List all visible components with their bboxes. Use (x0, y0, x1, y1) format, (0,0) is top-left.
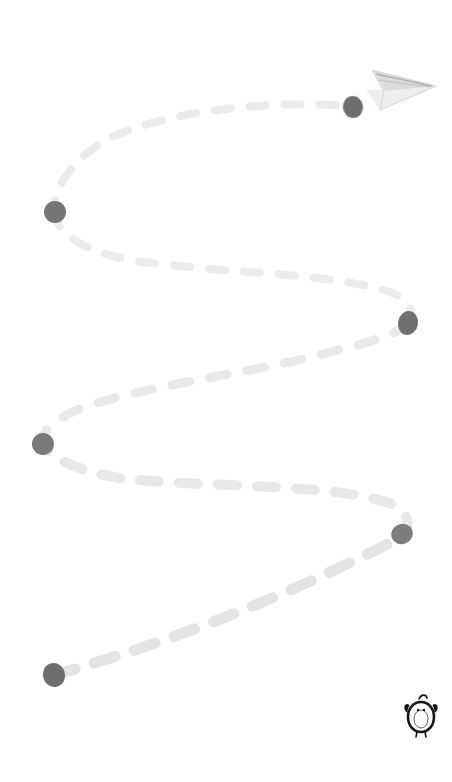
penguin-belly-icon (414, 710, 428, 728)
illustration-canvas: Dashed flight path with paper airplane (0, 0, 452, 782)
flight-path-scene (0, 0, 452, 782)
background (0, 0, 452, 782)
penguin-right-eye-icon (423, 709, 425, 711)
penguin-left-eye-icon (417, 709, 419, 711)
penguin-left-foot-icon (416, 732, 417, 737)
penguin-right-foot-icon (425, 732, 426, 737)
waypoint-5[interactable] (44, 201, 66, 223)
